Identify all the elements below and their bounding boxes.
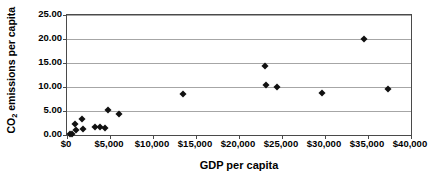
data-point — [115, 111, 122, 118]
data-point — [101, 124, 108, 131]
y-tick-label: 10.00 — [22, 81, 62, 91]
y-tick-label: 15.00 — [22, 57, 62, 67]
y-tick-label: 5.00 — [22, 105, 62, 115]
data-point — [79, 115, 86, 122]
gridline — [67, 39, 411, 40]
y-tick-mark — [63, 111, 67, 112]
gridline — [67, 63, 411, 64]
data-point — [360, 36, 367, 43]
y-tick-mark — [63, 63, 67, 64]
x-tick-label: $40,000 — [375, 139, 441, 149]
y-tick-label: 0.00 — [22, 129, 62, 139]
y-axis-title-subscript: 2 — [10, 113, 19, 117]
data-point — [273, 84, 280, 91]
data-point — [318, 90, 325, 97]
scatter-chart: CO2 emissions per capita 0.005.0010.0015… — [0, 0, 441, 185]
y-axis-title: CO2 emissions per capita — [0, 0, 22, 140]
y-tick-mark — [63, 15, 67, 16]
plot-area — [66, 14, 412, 136]
gridline — [67, 15, 411, 16]
data-point — [180, 90, 187, 97]
y-axis-title-suffix: emissions per capita — [5, 7, 17, 114]
x-axis-title: GDP per capita — [66, 160, 412, 171]
data-point — [80, 126, 87, 133]
y-axis-tick-labels: 0.005.0010.0015.0020.0025.00 — [20, 0, 62, 185]
y-axis-title-prefix: CO — [5, 118, 17, 134]
y-tick-label: 20.00 — [22, 33, 62, 43]
gridline — [67, 87, 411, 88]
data-point — [105, 106, 112, 113]
y-tick-mark — [63, 87, 67, 88]
x-axis-tick-labels: $0$5,000$10,000$15,000$20,000$25,000$30,… — [66, 139, 412, 155]
y-tick-mark — [63, 39, 67, 40]
y-tick-label: 25.00 — [22, 9, 62, 19]
